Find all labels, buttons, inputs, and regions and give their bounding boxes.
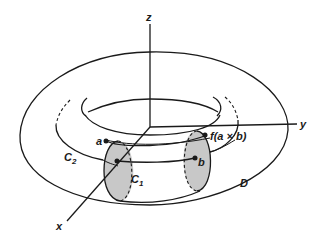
curve-c1-label: C1 (131, 173, 144, 188)
hidden-dash-right (225, 97, 238, 120)
hidden-dash-left (56, 100, 70, 125)
y-axis (150, 124, 297, 127)
x-axis-label: x (55, 220, 63, 232)
point-a-label: a (96, 135, 102, 147)
torus-bottom-inner (120, 191, 200, 202)
point-f-label: f(a × b) (210, 130, 247, 142)
point-origin-section (115, 159, 120, 164)
torus-diagram: z y x a b f(a × b) C2 C1 D (0, 0, 322, 241)
curve-c2-label: C2 (64, 151, 77, 166)
z-axis-label: z (145, 11, 152, 23)
point-a (104, 139, 109, 144)
y-axis-label: y (299, 118, 307, 130)
torus-hole-curl-right (213, 97, 221, 116)
point-b-label: b (198, 156, 205, 168)
region-d-label: D (240, 177, 248, 189)
torus-hole-curl-left (82, 98, 87, 116)
point-f-axb (203, 133, 208, 138)
torus-hole-back-arc (88, 99, 218, 112)
point-b (193, 156, 198, 161)
